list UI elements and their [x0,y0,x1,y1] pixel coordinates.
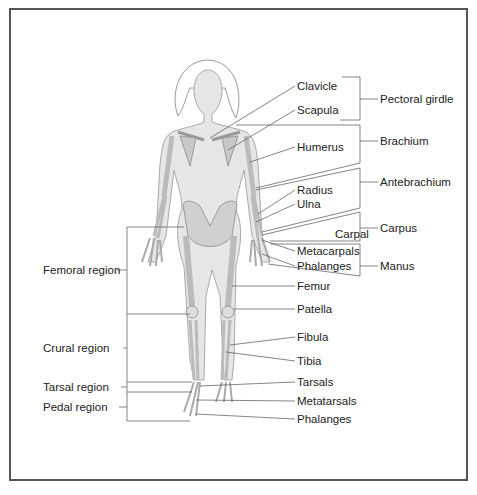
region-carpus: Carpus [380,222,417,235]
label-tibia: Tibia [297,355,322,368]
label-fibula: Fibula [297,331,328,344]
label-metacarpals: Metacarpals [297,245,360,258]
region-femoral: Femoral region [43,264,120,277]
label-femur: Femur [297,280,330,293]
skeleton-figure [0,0,477,495]
region-tarsal: Tarsal region [43,381,109,394]
label-ulna: Ulna [297,198,321,211]
region-manus: Manus [380,260,415,273]
label-radius: Radius [297,184,333,197]
label-foot-phalanges: Phalanges [297,413,351,426]
region-pedal: Pedal region [43,401,108,414]
label-metatarsals: Metatarsals [297,395,356,408]
label-hand-phalanges: Phalanges [297,260,351,273]
label-patella: Patella [297,303,332,316]
region-brachium: Brachium [380,135,429,148]
label-carpal: Carpal [335,228,369,241]
region-antebrachium: Antebrachium [380,176,451,189]
label-scapula: Scapula [297,104,339,117]
region-crural: Crural region [43,342,109,355]
label-clavicle: Clavicle [297,80,337,93]
label-humerus: Humerus [297,141,344,154]
region-pectoral-girdle: Pectoral girdle [380,93,454,106]
label-tarsals: Tarsals [297,376,333,389]
